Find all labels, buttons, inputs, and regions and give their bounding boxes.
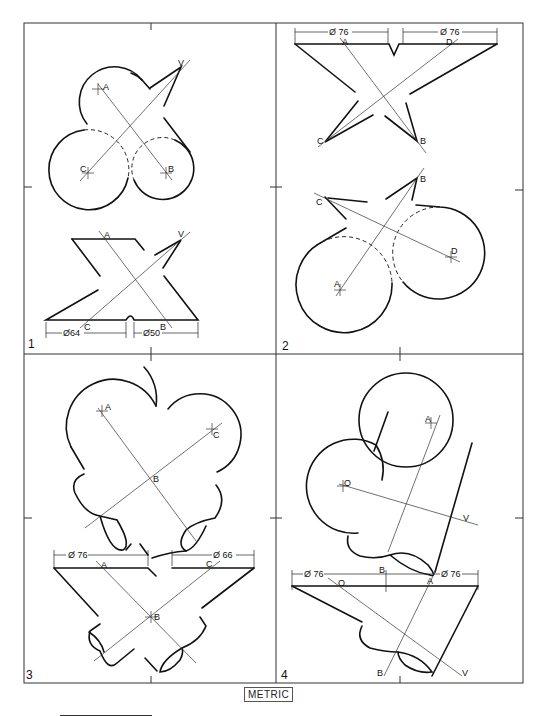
label-o: O — [338, 578, 345, 588]
label-b: B — [420, 174, 426, 184]
label-b: B — [420, 136, 426, 146]
panel-number: 3 — [26, 668, 33, 682]
label-c: C — [316, 197, 323, 207]
label-v: V — [462, 668, 468, 678]
label-a: A — [105, 402, 111, 412]
panel-number: 2 — [282, 339, 289, 353]
dimension-diameter: Ø 76 — [68, 550, 88, 560]
label-b: B — [154, 612, 160, 622]
panel-1: A B C V A B C V Ø64 Ø50 1 — [28, 58, 198, 351]
panel-3: A B C A B C Ø 76 Ø 66 3 — [26, 367, 254, 682]
label-a: A — [334, 279, 340, 289]
panel-2: Ø 76 Ø 76 A B C D A B C D 2 — [282, 27, 497, 353]
dimension-diameter: Ø 76 — [440, 27, 460, 37]
label-o: O — [344, 478, 351, 488]
label-a: A — [104, 230, 110, 240]
dimension-diameter: Ø 66 — [213, 550, 233, 560]
dimension-diameter: Ø50 — [143, 328, 160, 338]
sheet-frame — [24, 23, 523, 683]
panel-number: 4 — [281, 668, 288, 682]
label-v: V — [178, 58, 184, 68]
label-b: B — [153, 474, 159, 484]
label-a: A — [425, 414, 431, 424]
dimension-diameter: Ø 76 — [304, 569, 324, 579]
label-d: D — [446, 37, 453, 47]
label-b: B — [168, 164, 174, 174]
dimension-diameter: Ø64 — [63, 328, 80, 338]
label-c: C — [84, 322, 91, 332]
label-a: A — [342, 37, 348, 47]
label-c: C — [213, 430, 220, 440]
dimension-diameter: Ø 76 — [329, 27, 349, 37]
label-b: B — [377, 668, 383, 678]
label-c: C — [317, 136, 324, 146]
label-v: V — [463, 513, 469, 523]
units-label: METRIC — [244, 687, 293, 702]
label-c: C — [206, 559, 213, 569]
drawing-sheet: A B C V A B C V Ø64 Ø50 1 — [0, 0, 544, 716]
label-v: V — [178, 229, 184, 239]
label-b: B — [379, 565, 385, 575]
panel-4: A O V O A B B V Ø 76 Ø 76 4 — [281, 373, 478, 682]
label-b: B — [160, 322, 166, 332]
label-a: A — [103, 82, 109, 92]
label-a: A — [427, 576, 433, 586]
label-a: A — [101, 560, 107, 570]
label-c: C — [80, 164, 87, 174]
panel-number: 1 — [28, 337, 35, 351]
dimension-diameter: Ø 76 — [441, 569, 461, 579]
label-d: D — [451, 246, 458, 256]
